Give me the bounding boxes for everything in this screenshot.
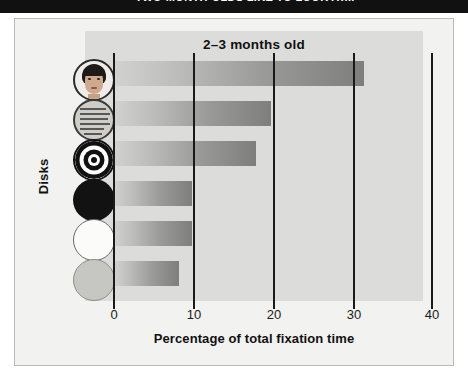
newsprint-line: [80, 113, 110, 115]
face-right-eye: [97, 78, 100, 80]
black-disk-icon: [73, 179, 115, 221]
gridline-30: [353, 59, 355, 301]
face-fringe-shape: [84, 69, 104, 76]
x-axis-label: Percentage of total fixation time: [85, 331, 423, 346]
chart-figure: 2–3 months old Disks: [14, 18, 454, 366]
x-tick-label-30: 30: [347, 307, 361, 322]
gridline-10: [193, 59, 195, 301]
header-banner-left-block: [0, 0, 26, 13]
disk-icon-column: [71, 59, 117, 301]
bar-white: [113, 221, 192, 246]
tick-mark-40: [431, 53, 433, 61]
face-disk-icon: [73, 59, 115, 101]
gridline-40: [431, 59, 433, 301]
newsprint-disk-icon: [73, 99, 115, 141]
x-tick-label-40: 40: [425, 307, 439, 322]
bar-face: [113, 61, 364, 86]
tick-mark-30: [353, 53, 355, 61]
bullseye-center: [91, 157, 97, 163]
tick-mark-10: [193, 53, 195, 61]
bar-gray: [113, 261, 179, 286]
bullseye-disk-icon: [73, 139, 115, 181]
header-banner-text: TWO-MONTH-OLDS LIKE TO LOOK AT...: [22, 0, 468, 3]
newsprint-line: [80, 123, 110, 125]
x-tick-label-20: 20: [267, 307, 281, 322]
tick-mark-20: [273, 53, 275, 61]
gridline-20: [273, 59, 275, 301]
face-mouth: [91, 87, 97, 89]
newsprint-line: [80, 128, 104, 130]
gray-disk-icon: [73, 259, 115, 301]
newsprint-line: [80, 108, 106, 110]
bar-bullseye: [113, 141, 256, 166]
white-disk-icon: [73, 219, 115, 261]
face-left-eye: [88, 78, 91, 80]
x-tick-label-10: 10: [187, 307, 201, 322]
chart-title: 2–3 months old: [85, 37, 423, 52]
newsprint-line: [80, 118, 108, 120]
bar-newsprint: [113, 101, 271, 126]
x-tick-label-0: 0: [110, 307, 117, 322]
newsprint-line: [84, 133, 102, 135]
tick-mark-0: [113, 53, 115, 61]
y-axis-line: [113, 59, 115, 301]
y-axis-label: Disks: [36, 137, 51, 217]
bar-black: [113, 181, 192, 206]
plot-area: 0 10 20 30 40: [113, 59, 433, 301]
header-banner: TWO-MONTH-OLDS LIKE TO LOOK AT...: [22, 0, 468, 13]
